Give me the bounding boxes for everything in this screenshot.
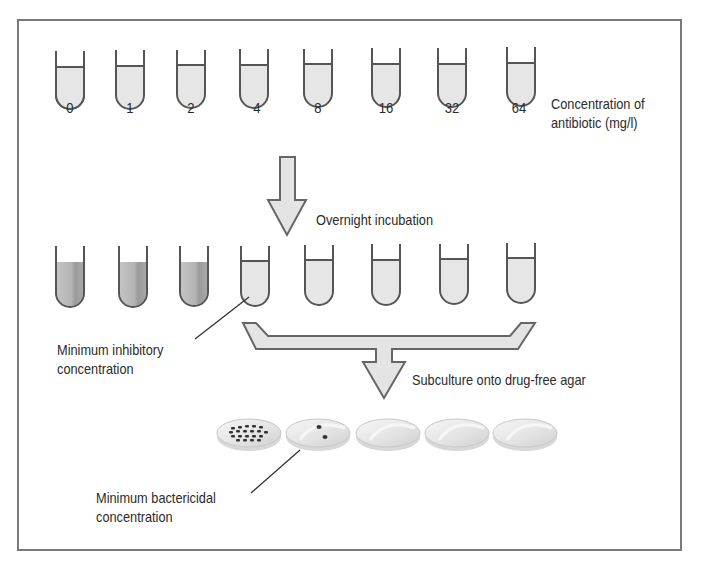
row2-tubes xyxy=(56,243,535,307)
concentration-label-16: 16 xyxy=(368,100,404,116)
tube-turbid-1 xyxy=(119,246,147,307)
subculture-label: Subculture onto drug-free agar xyxy=(412,371,586,389)
incubation-arrow xyxy=(268,157,306,235)
tube-clear-6 xyxy=(372,244,400,305)
plate-many-colonies xyxy=(217,419,281,451)
tube-turbid-2 xyxy=(180,246,208,306)
mbc-label-line2: concentration xyxy=(96,508,173,526)
concentration-label-32: 32 xyxy=(434,100,470,116)
tube-turbid-0 xyxy=(56,246,84,307)
tube-8 xyxy=(304,49,332,107)
mbc-pointer xyxy=(251,450,300,493)
concentration-label-64: 64 xyxy=(501,100,537,116)
plate-two-colonies xyxy=(286,419,350,451)
tube-clear-8 xyxy=(507,243,535,303)
mic-label-line2: concentration xyxy=(57,360,134,378)
tube-16 xyxy=(372,48,400,107)
concentration-label-4: 4 xyxy=(239,100,275,116)
plate-no-growth-3 xyxy=(356,419,420,451)
tube-64 xyxy=(507,47,535,106)
concentration-label-1: 1 xyxy=(112,100,148,116)
mic-label-line1: Minimum inhibitory xyxy=(57,341,163,359)
mbc-label-line1: Minimum bactericidal xyxy=(96,489,216,507)
concentration-label-0: 0 xyxy=(52,100,88,116)
tube-32 xyxy=(438,48,466,107)
concentration-axis-label-line2: antibiotic (mg/l) xyxy=(551,114,638,132)
concentration-label-8: 8 xyxy=(300,100,336,116)
agar-plates xyxy=(217,419,557,451)
concentration-axis-label-line1: Concentration of xyxy=(551,95,645,113)
plate-no-growth-4 xyxy=(425,419,489,451)
concentration-label-2: 2 xyxy=(173,100,209,116)
tube-clear-7 xyxy=(440,244,468,304)
tube-clear-5 xyxy=(305,245,333,305)
tube-clear-mic xyxy=(241,246,269,306)
plate-no-growth-5 xyxy=(493,419,557,451)
overnight-incubation-label: Overnight incubation xyxy=(316,211,433,229)
